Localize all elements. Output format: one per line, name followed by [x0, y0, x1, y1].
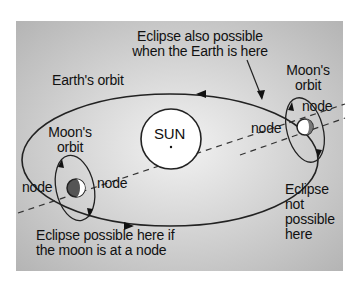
label-node-left-left: node	[22, 180, 52, 195]
label-moons-orbit-left: Moon's orbit	[40, 125, 100, 155]
label-node-left-right: node	[97, 176, 127, 191]
label-node-right-top: node	[302, 99, 332, 114]
label-sun: SUN	[154, 126, 185, 141]
orbit-arrow-top-icon	[196, 90, 206, 98]
label-node-right-left: node	[251, 121, 281, 136]
label-eclipse-possible: Eclipse possible here if the moon is at …	[36, 228, 174, 258]
label-eclipse-also-possible: Eclipse also possible when the Earth is …	[120, 29, 280, 59]
sun-center-dot	[170, 146, 172, 148]
label-eclipse-not-possible: Eclipse not possible here	[285, 182, 335, 242]
label-moons-orbit-right: Moon's orbit	[283, 63, 333, 93]
pointer-arrow-head-icon	[257, 90, 265, 100]
label-earths-orbit: Earth's orbit	[52, 73, 124, 88]
